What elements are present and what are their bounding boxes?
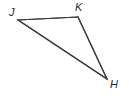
vertex-label-j: J bbox=[9, 7, 15, 18]
vertex-label-h: H bbox=[110, 79, 118, 90]
vertex-label-k: K bbox=[75, 2, 82, 13]
geometry-figure: J K H bbox=[0, 0, 129, 98]
edge-j-k bbox=[18, 17, 78, 20]
